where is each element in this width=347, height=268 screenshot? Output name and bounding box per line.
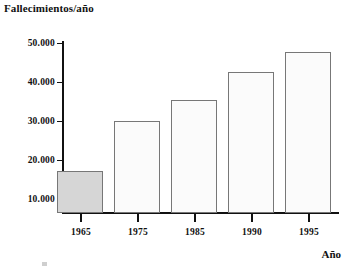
y-tick-mark	[57, 121, 63, 122]
y-tick-label: 50.000	[28, 38, 55, 48]
y-tick-label: 10.000	[28, 194, 55, 204]
y-tick-label: 40.000	[28, 77, 55, 87]
x-tick-mark	[137, 214, 139, 222]
y-tick-mark	[57, 82, 63, 83]
x-tick-mark	[80, 214, 82, 222]
y-tick-mark	[57, 43, 63, 44]
bar-chart-figure: Fallecimientos/año 50.000 40.000 30.000 …	[0, 0, 347, 268]
x-tick-mark	[251, 214, 253, 222]
chart-title: Fallecimientos/año	[4, 2, 94, 14]
x-tick-mark	[308, 214, 310, 222]
scan-artifact	[42, 262, 47, 266]
bar-1995	[285, 52, 331, 213]
bar-1965	[57, 171, 103, 213]
x-axis-caption: Año	[321, 248, 341, 260]
x-tick-label-1995: 1995	[299, 227, 319, 237]
bar-1975	[114, 121, 160, 213]
x-tick-mark	[194, 214, 196, 222]
x-axis-ticks: 1965 1975 1985 1990 1995	[62, 214, 339, 244]
bar-1990	[228, 72, 274, 213]
x-tick-label-1985: 1985	[185, 227, 205, 237]
y-tick-label: 30.000	[28, 116, 55, 126]
y-tick-label: 20.000	[28, 155, 55, 165]
y-tick-mark	[57, 160, 63, 161]
bar-1985	[171, 100, 217, 213]
plot-area: 50.000 40.000 30.000 20.000 10.000	[62, 42, 339, 213]
x-tick-label-1975: 1975	[128, 227, 148, 237]
x-tick-label-1990: 1990	[242, 227, 262, 237]
x-tick-label-1965: 1965	[71, 227, 91, 237]
